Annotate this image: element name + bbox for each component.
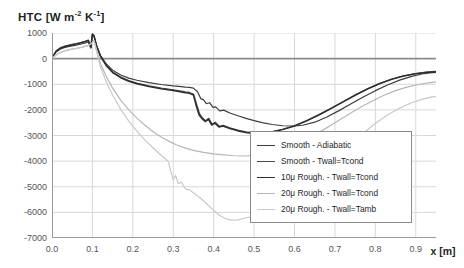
y-axis-tick-label: -6000: [24, 207, 47, 217]
legend-item-1: Smooth - Twall=Tcond: [257, 153, 407, 169]
legend-item-3: 20μ Rough. - Twall=Tcond: [257, 185, 407, 201]
x-axis-label: x [m]: [430, 245, 455, 257]
x-axis-tick-label: 0.1: [86, 244, 99, 254]
y-axis-tick-label: -5000: [24, 182, 47, 192]
x-axis-tick-label: 0.6: [288, 244, 301, 254]
chart-title-main: HTC [W m: [18, 11, 75, 23]
x-axis-tick-label: 0.9: [410, 244, 423, 254]
legend-label: 20μ Rough. - Twall=Tcond: [281, 188, 378, 198]
legend-item-4: 20μ Rough. - Twall=Tamb: [257, 201, 407, 217]
legend-label: 20μ Rough. - Twall=Tamb: [281, 204, 376, 214]
chart-legend: Smooth - AdiabaticSmooth - Twall=Tcond10…: [250, 131, 412, 223]
legend-item-2: 10μ Rough. - Twall=Tcond: [257, 169, 407, 185]
chart-title: HTC [W m-2 K-1]: [18, 9, 105, 23]
series-line-0: [52, 35, 436, 126]
x-axis-tick-label: 0.5: [248, 244, 261, 254]
y-axis-tick-label: 1000: [27, 28, 47, 38]
x-axis-tick-label: 0.4: [207, 244, 220, 254]
legend-swatch-icon: [257, 177, 275, 178]
x-axis-tick-label: 0.7: [329, 244, 342, 254]
x-axis-tick-label: 0.8: [369, 244, 382, 254]
x-axis-tick-label: 0.0: [46, 244, 59, 254]
legend-item-0: Smooth - Adiabatic: [257, 137, 407, 153]
legend-label: 10μ Rough. - Twall=Tcond: [281, 172, 378, 182]
chart-title-sup-1: -2: [75, 9, 82, 18]
y-axis-tick-label: -7000: [24, 233, 47, 243]
legend-label: Smooth - Twall=Tcond: [281, 156, 363, 166]
y-axis-tick-label: 0: [42, 54, 47, 64]
chart-title-mid: K: [82, 11, 94, 23]
legend-swatch-icon: [257, 161, 275, 162]
legend-swatch-icon: [257, 145, 275, 146]
x-axis-tick-label: 0.3: [167, 244, 180, 254]
y-axis-tick-label: -1000: [24, 79, 47, 89]
chart-title-sup-2: -1: [94, 9, 101, 18]
legend-swatch-icon: [257, 209, 275, 210]
chart-title-tail: ]: [101, 11, 105, 23]
legend-label: Smooth - Adiabatic: [281, 140, 351, 150]
x-axis-tick-label: 0.2: [127, 244, 140, 254]
chart-root: HTC [W m-2 K-1] 10000-1000-2000-3000-400…: [0, 0, 464, 268]
y-axis-tick-label: -2000: [24, 105, 47, 115]
legend-swatch-icon: [257, 193, 275, 194]
y-axis-tick-label: -3000: [24, 131, 47, 141]
y-axis-tick-label: -4000: [24, 156, 47, 166]
